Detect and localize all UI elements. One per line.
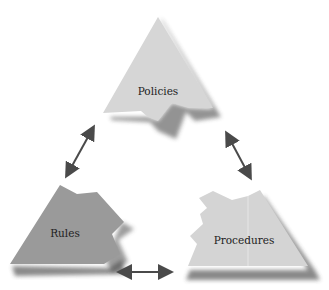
policies-shape[interactable] <box>103 17 213 121</box>
arrow-policies-rules <box>67 128 93 175</box>
rules-label: Rules <box>50 227 80 239</box>
diagram-canvas: Policies Rules Procedures <box>0 0 329 290</box>
procedures-label: Procedures <box>214 234 275 246</box>
policies-label: Policies <box>138 85 179 97</box>
arrow-policies-procedures <box>227 134 250 177</box>
rules-shape[interactable] <box>10 185 124 264</box>
diagram-graphics <box>0 0 329 290</box>
